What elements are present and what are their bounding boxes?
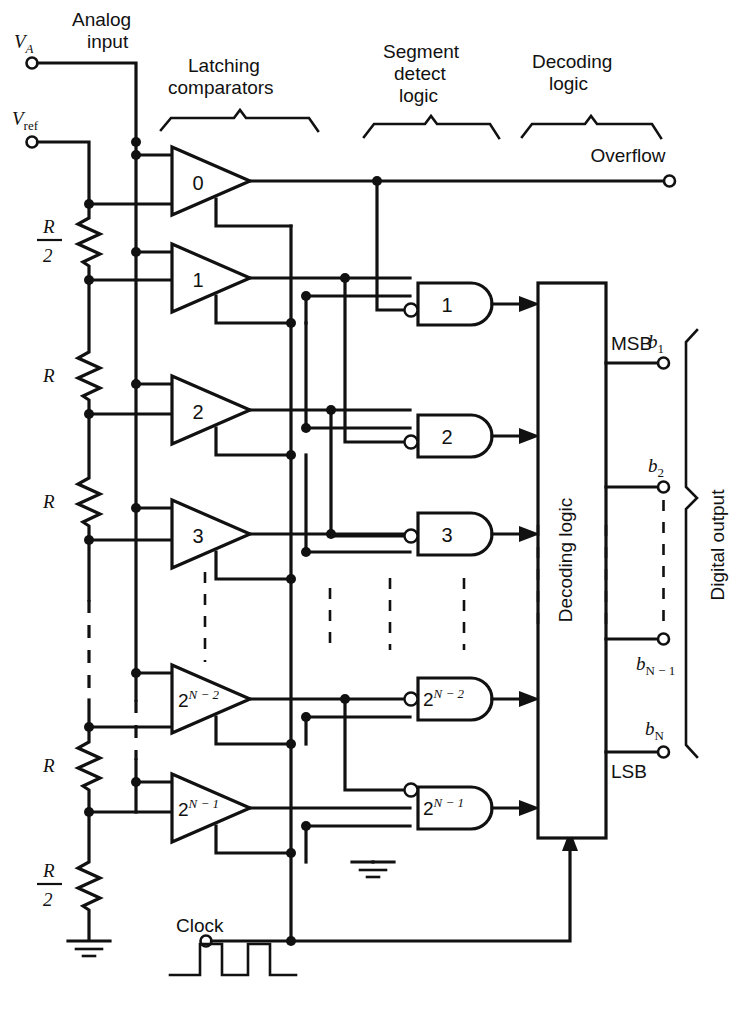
brace-segment-detect-logic: Segment detect logic (364, 41, 499, 138)
adc-flash-converter-diagram: VA Analog input Vref Latching comparator… (0, 0, 752, 1033)
gate-2n-2[interactable]: 2N − 2 (405, 678, 541, 720)
comp-3[interactable]: 3 (172, 500, 250, 568)
gate-2-invert-bubble-icon (405, 436, 418, 449)
gate-2n-1[interactable]: 2N − 1 (405, 784, 541, 830)
latching-comparators-brace-path (161, 110, 318, 131)
gate-3-body[interactable] (418, 513, 492, 555)
junction-dot-analog-3 (131, 503, 141, 513)
resistor-r-top-label: R 2 (37, 216, 62, 266)
resistor-r-top-denominator: 2 (43, 245, 53, 266)
output-b1: MSB b1 (606, 331, 669, 369)
resistor-r-top-numerator: R (42, 216, 55, 237)
output-bn-terminal-circle[interactable] (658, 747, 669, 758)
va-label: VA (14, 31, 34, 56)
comp-2-clock-stub (216, 428, 291, 455)
gate-3-label: 3 (441, 524, 452, 546)
comp-2[interactable]: 2 (172, 376, 250, 444)
resistor-r-top-zigzag (78, 204, 100, 280)
vref-terminal-circle[interactable] (27, 137, 38, 148)
gate-1[interactable]: 1 (405, 283, 541, 325)
segment-detect-brace-path (364, 116, 499, 138)
junction-dot-clock-1 (286, 318, 296, 328)
junction-dot-clock-4 (286, 739, 296, 749)
comp-1[interactable]: 1 (172, 244, 250, 312)
resistor-r-3-label: R (42, 755, 55, 776)
gate-2-body[interactable] (418, 415, 492, 457)
junction-dot-overflow-branch (372, 176, 382, 186)
junction-dot-analog-0 (131, 150, 141, 160)
junction-dot-riser-4 (301, 712, 311, 722)
va-terminal-group: VA (14, 31, 38, 69)
comp-1-clock-stub (216, 296, 291, 323)
gate-1-label: 1 (441, 294, 452, 316)
junction-dot-analog-1 (131, 247, 141, 257)
output-bn-label: bN (645, 718, 665, 743)
junction-dot-clock-2 (286, 450, 296, 460)
junction-dot-riser-1 (301, 291, 311, 301)
gate-3[interactable]: 3 (405, 513, 541, 555)
output-b2-terminal-circle[interactable] (658, 482, 669, 493)
resistor-r-1-label: R (42, 365, 55, 386)
output-b1-terminal-circle[interactable] (658, 358, 669, 369)
decoding-logic-block-label: Decoding logic (555, 498, 576, 623)
junction-dot-clock-5 (286, 848, 296, 858)
resistor-r-2: R (42, 414, 100, 540)
resistor-r-3: R (42, 727, 100, 812)
vref-wire (38, 142, 90, 204)
resistor-r-1-zigzag (78, 280, 100, 414)
output-bn-1-terminal-circle[interactable] (658, 634, 669, 645)
comp-2n-1[interactable]: 2N − 1 (172, 774, 250, 842)
junction-dot-comp2n2-branch (340, 694, 350, 704)
comp-0-triangle[interactable] (172, 147, 250, 215)
overflow-terminal-circle[interactable] (664, 176, 675, 187)
resistor-r-2-zigzag (78, 414, 100, 540)
decoding-logic-block[interactable]: Decoding logic (538, 283, 606, 838)
resistor-r-3-zigzag (78, 727, 100, 812)
gate-2n-2-invert-bubble-icon (405, 693, 418, 706)
ground-symbol-gates (352, 862, 394, 877)
clock-label: Clock (176, 915, 224, 936)
resistor-r-bottom-denominator: 2 (43, 889, 53, 910)
comp-1-triangle[interactable] (172, 244, 250, 312)
gate-2n-1-invert-bubble-icon (405, 784, 418, 797)
junction-dot-analog-2 (131, 379, 141, 389)
analog-input-label-line2: input (87, 31, 129, 52)
resistor-r-bottom-label: R 2 (37, 860, 62, 910)
resistor-r-1: R (42, 280, 100, 414)
comp-2n-2-branch-to-gate-2n-1 (345, 699, 410, 790)
ground-symbol-ladder (68, 941, 110, 956)
output-bn-1: bN − 1 (606, 634, 675, 679)
vref-label: Vref (12, 108, 39, 133)
digital-output-brace-path (686, 330, 697, 757)
va-terminal-circle[interactable] (27, 58, 38, 69)
junction-dot-ladder-4 (84, 722, 94, 732)
comp-3-label: 3 (192, 525, 203, 547)
gate-2[interactable]: 2 (405, 415, 541, 457)
clock-waveform (170, 944, 296, 975)
junction-dot-riser-3 (301, 547, 311, 557)
resistor-r-bottom-zigzag (78, 812, 100, 940)
junction-dot-riser-2 (301, 423, 311, 433)
brace-decoding-logic: Decoding logic (522, 51, 661, 138)
output-b2: b2 (606, 455, 669, 493)
comp-3-triangle[interactable] (172, 500, 250, 568)
comp-0[interactable]: 0 (172, 147, 250, 215)
comp-0-clock-stub (216, 199, 291, 226)
segment-detect-label-line2: detect (394, 63, 446, 84)
decoding-logic-label-line1: Decoding (532, 51, 612, 72)
gate-1-body[interactable] (418, 283, 492, 325)
junction-dot-comp2-branch (326, 405, 336, 415)
junction-dot-riser-5 (301, 821, 311, 831)
segment-detect-label-line1: Segment (383, 41, 460, 62)
comp-2-triangle[interactable] (172, 376, 250, 444)
latching-comparators-label-line2: comparators (168, 77, 274, 98)
comp-2-label: 2 (192, 401, 203, 423)
schematic-canvas: VA Analog input Vref Latching comparator… (0, 0, 752, 1033)
junction-dot-clock-terminal (286, 936, 296, 946)
gate-1-invert-bubble-icon (405, 304, 418, 317)
junction-dot-ladder-5 (84, 807, 94, 817)
decoding-logic-brace-path (522, 116, 661, 138)
junction-dot-ladder-2 (84, 409, 94, 419)
comp-2n-2[interactable]: 2N − 2 (172, 665, 250, 733)
output-bn-1-label: bN − 1 (636, 653, 675, 678)
